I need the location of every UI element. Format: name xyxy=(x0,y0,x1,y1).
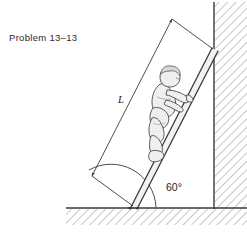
problem-label: Problem 13–13 xyxy=(9,32,77,43)
physics-figure-problem-13-13: L 60° Problem 13–13 xyxy=(0,0,247,233)
length-label: L xyxy=(117,94,124,105)
person-foot xyxy=(149,150,164,161)
angle-label: 60° xyxy=(166,181,182,193)
wall xyxy=(214,2,247,209)
ground xyxy=(66,208,247,225)
figure-canvas: L 60° Problem 13–13 xyxy=(0,0,247,233)
wall-hatching xyxy=(215,2,247,208)
ground-hatching xyxy=(66,209,247,225)
